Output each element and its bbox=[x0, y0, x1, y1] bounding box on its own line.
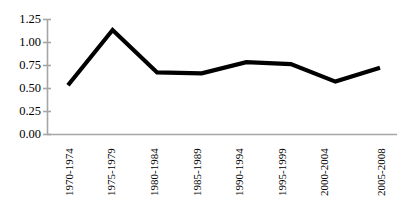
x-axis-tick-label: 1995-1999 bbox=[277, 148, 288, 196]
x-axis-tick-label: 1990-1994 bbox=[234, 148, 245, 196]
x-axis-tick-label: 2000-2004 bbox=[319, 148, 330, 196]
x-axis-tick-label: 1985-1989 bbox=[192, 148, 203, 196]
x-axis-tick-labels: 1970-1974 1975-1979 1980-1984 1985-1989 … bbox=[0, 0, 404, 206]
line-chart: 1.25 1.00 0.75 0.50 0.25 0.00 1970-1974 … bbox=[0, 0, 404, 206]
x-axis-tick-label: 1975-1979 bbox=[106, 148, 117, 196]
x-axis-tick-label: 1970-1974 bbox=[64, 148, 75, 196]
x-axis-tick-label: 2005-2008 bbox=[376, 148, 387, 196]
x-axis-tick-label: 1980-1984 bbox=[149, 148, 160, 196]
